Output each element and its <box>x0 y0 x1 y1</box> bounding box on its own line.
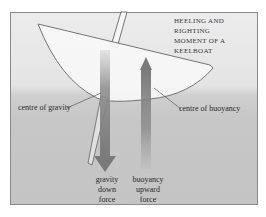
buoyancy-force-line-1: buoyancy <box>128 175 168 185</box>
label-buoyancy-force: buoyancy upward force <box>128 175 168 205</box>
label-centre-of-buoyancy: centre of buoyancy <box>179 104 240 114</box>
gravity-force-line-2: down <box>92 185 122 195</box>
buoyancy-force-line-2: upward <box>128 185 168 195</box>
buoyancy-force-line-3: force <box>128 195 168 205</box>
title-line-1: Heeling and righting <box>174 16 254 36</box>
title-line-2: moment of a keelboat <box>174 36 254 56</box>
leader-line-gravity <box>67 93 101 108</box>
diagram-title: Heeling and righting moment of a keelboa… <box>174 16 254 56</box>
gravity-force-line-1: gravity <box>92 175 122 185</box>
buoyancy-arrow <box>140 57 152 169</box>
label-centre-of-gravity: centre of gravity <box>18 103 71 113</box>
label-gravity-force: gravity down force <box>92 175 122 205</box>
gravity-force-line-3: force <box>92 195 122 205</box>
